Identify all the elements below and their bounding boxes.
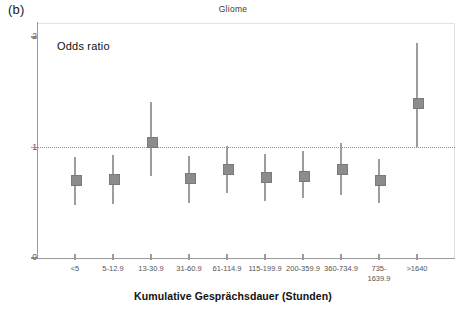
x-axis-tick — [112, 254, 113, 260]
x-axis-tick — [226, 254, 227, 260]
x-axis-tick — [264, 254, 265, 260]
x-axis-tick — [378, 254, 379, 260]
y-axis-tick-label: 2 — [15, 31, 37, 41]
odds-ratio-annotation: Odds ratio — [57, 40, 110, 52]
x-axis-title: Kumulative Gesprächsdauer (Stunden) — [0, 290, 466, 302]
data-point-marker — [413, 98, 424, 109]
plot-top-border — [37, 23, 455, 24]
data-point-marker — [375, 175, 386, 186]
data-point-marker — [109, 174, 120, 185]
x-axis-tick — [340, 254, 341, 260]
x-axis-tick — [74, 254, 75, 260]
data-point-marker — [261, 172, 272, 183]
y-axis-line — [37, 22, 38, 259]
y-axis-tick-label: 0 — [15, 252, 37, 262]
y-axis-tick-label: 1 — [15, 142, 37, 152]
x-axis-line — [37, 258, 455, 259]
confidence-interval-bar — [416, 43, 418, 148]
data-point-marker — [337, 164, 348, 175]
data-point-marker — [147, 137, 158, 148]
reference-line-or-1 — [37, 147, 455, 148]
data-point-marker — [299, 171, 310, 182]
x-axis-tick — [302, 254, 303, 260]
x-axis-tick-label: >1640 — [385, 264, 449, 274]
plot-right-border — [454, 23, 455, 259]
x-axis-tick — [188, 254, 189, 260]
data-point-marker — [223, 164, 234, 175]
data-point-marker — [71, 175, 82, 186]
figure-panel: (b) Gliome Odds ratio 012 <55-12.913-30.… — [0, 0, 466, 312]
data-point-marker — [185, 173, 196, 184]
chart-title: Gliome — [0, 4, 466, 14]
x-axis-tick — [416, 254, 417, 260]
x-axis-tick — [150, 254, 151, 260]
